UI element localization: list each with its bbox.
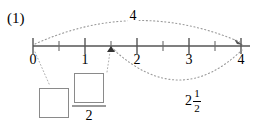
answer-box-whole-number[interactable] [39,88,69,118]
tick-label-2: 2 [127,53,147,67]
bottom-arc-label-fraction: 1 2 [193,88,201,114]
top-arc-label: 4 [128,9,139,23]
answer-fraction-bar [72,105,106,107]
tick-label-1: 1 [75,53,95,67]
answer-box-numerator[interactable] [74,73,104,103]
bottom-arc-label: 2 1 2 [183,88,203,114]
tick-label-0: 0 [23,53,43,67]
answer-fraction-denominator: 2 [86,108,93,123]
bottom-arc-label-numerator: 1 [194,88,200,100]
tick-label-3: 3 [179,53,199,67]
bottom-arc-label-denominator: 2 [194,103,200,115]
problem-number: (1) [7,11,25,26]
leader-line-fraction-box [107,52,110,72]
number-line-figure: (1) 0 1 2 3 4 4 2 1 2 2 [0,0,268,124]
answer-fraction: 2 [72,73,106,123]
bottom-arc-label-whole: 2 [185,94,192,108]
tick-label-4: 4 [231,53,251,67]
